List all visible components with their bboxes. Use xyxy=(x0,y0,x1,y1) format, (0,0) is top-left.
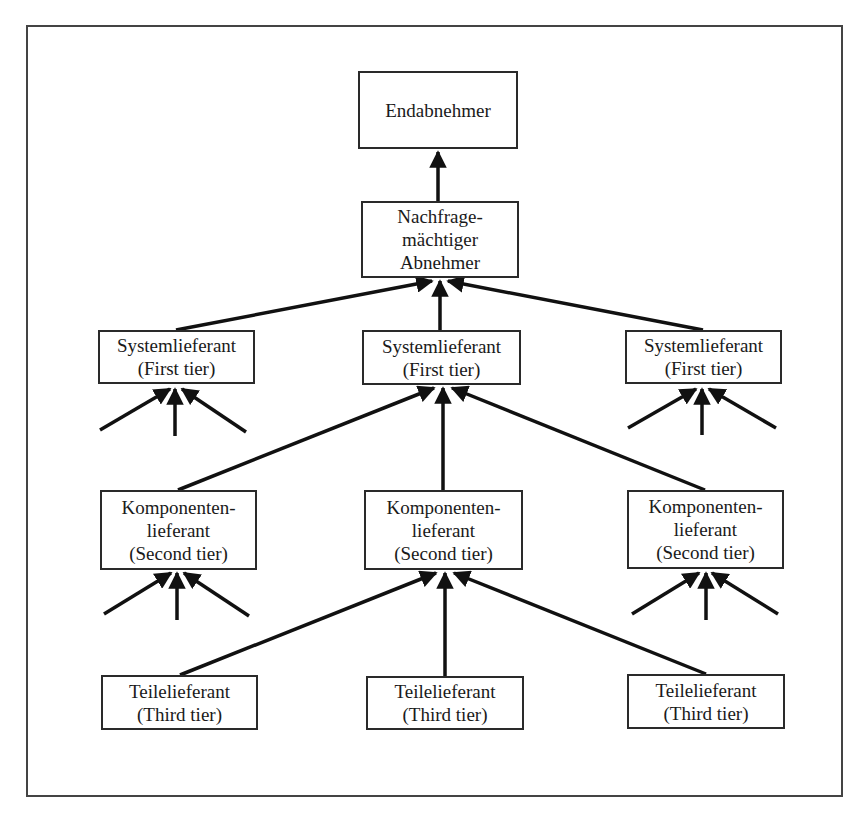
node-first-tier-right: Systemlieferant (First tier) xyxy=(625,330,782,384)
node-label: (Second tier) xyxy=(394,542,493,565)
node-third-tier-left: Teilelieferant (Third tier) xyxy=(101,675,258,730)
edge-ft-right xyxy=(448,281,703,330)
node-label: (First tier) xyxy=(403,358,481,381)
stub-ftr-3 xyxy=(709,389,776,428)
node-end-customer: Endabnehmer xyxy=(358,71,518,149)
node-second-tier-left: Komponenten- lieferant (Second tier) xyxy=(100,490,257,570)
edge-st-right xyxy=(452,388,705,490)
node-label: (Third tier) xyxy=(664,702,749,725)
node-label: Teilelieferant xyxy=(129,680,230,703)
edge-ft-left xyxy=(176,281,432,330)
node-label: (First tier) xyxy=(665,357,743,380)
node-second-tier-mid: Komponenten- lieferant (Second tier) xyxy=(364,490,523,570)
node-label: Systemlieferant xyxy=(382,335,501,358)
node-label: lieferant xyxy=(412,519,475,542)
node-powerful-buyer: Nachfrage- mächtiger Abnehmer xyxy=(361,201,519,278)
stub-stl-1 xyxy=(104,573,171,614)
node-label: (Second tier) xyxy=(656,541,755,564)
node-second-tier-right: Komponenten- lieferant (Second tier) xyxy=(627,490,784,569)
node-label: Teilelieferant xyxy=(395,680,496,703)
edge-st-left xyxy=(178,388,434,490)
node-label: (Third tier) xyxy=(403,703,488,726)
node-label: Abnehmer xyxy=(400,251,480,274)
node-label: (First tier) xyxy=(138,357,216,380)
node-label: lieferant xyxy=(674,518,737,541)
node-label: mächtiger xyxy=(402,228,478,251)
stub-str-3 xyxy=(712,573,778,614)
node-label: Komponenten- xyxy=(387,496,501,519)
node-label: Systemlieferant xyxy=(644,334,763,357)
edge-tt-left xyxy=(180,573,436,675)
node-label: (Second tier) xyxy=(129,542,228,565)
stub-ftl-1 xyxy=(100,389,170,430)
node-third-tier-mid: Teilelieferant (Third tier) xyxy=(366,676,524,730)
node-label: Endabnehmer xyxy=(385,99,491,122)
node-label: Teilelieferant xyxy=(656,679,757,702)
node-label: lieferant xyxy=(147,519,210,542)
stub-stl-3 xyxy=(184,573,249,616)
node-first-tier-left: Systemlieferant (First tier) xyxy=(98,330,255,384)
node-third-tier-right: Teilelieferant (Third tier) xyxy=(627,674,785,729)
node-label: (Third tier) xyxy=(137,703,222,726)
edge-tt-right xyxy=(454,573,706,674)
stub-ftr-1 xyxy=(628,389,696,428)
node-label: Nachfrage- xyxy=(397,205,482,228)
node-first-tier-mid: Systemlieferant (First tier) xyxy=(362,330,521,385)
node-label: Komponenten- xyxy=(122,496,236,519)
stub-str-1 xyxy=(632,573,699,614)
stub-ftl-3 xyxy=(182,389,246,432)
node-label: Systemlieferant xyxy=(117,334,236,357)
node-label: Komponenten- xyxy=(649,495,763,518)
